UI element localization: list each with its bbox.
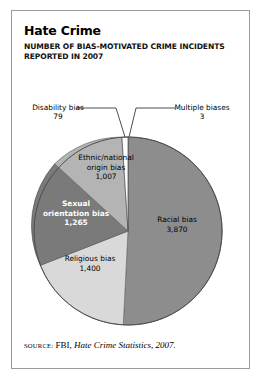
slice-label-religious-bias-value: 1,400 xyxy=(50,264,130,274)
slice-label-ethnic-line1: Ethnic/national xyxy=(66,153,146,163)
page-title: Hate Crime xyxy=(24,24,238,38)
slice-label-sexual-value: 1,265 xyxy=(32,218,120,228)
slice-label-racial-bias-name: Racial bias xyxy=(140,215,214,225)
chart-subtitle: NUMBER OF BIAS-MOTIVATED CRIME INCIDENTS… xyxy=(24,42,238,61)
source-publication: Hate Crime Statistics, 2007. xyxy=(74,340,176,350)
slice-label-racial-bias-value: 3,870 xyxy=(140,225,214,235)
slice-label-ethnic-line2: origin bias xyxy=(66,163,146,173)
callout-multiple-biases-value: 3 xyxy=(162,112,242,121)
slice-label-ethnic-value: 1,007 xyxy=(66,172,146,182)
slice-label-religious-bias-name: Religious bias xyxy=(50,254,130,264)
figure-card: Hate Crime NUMBER OF BIAS-MOTIVATED CRIM… xyxy=(11,10,250,369)
source-agency: FBI, xyxy=(56,340,72,350)
slice-label-ethnic-national-origin-bias: Ethnic/national origin bias 1,007 xyxy=(66,153,146,182)
callout-multiple-biases: Multiple biases 3 xyxy=(162,103,242,122)
slice-label-sexual-orientation-bias: Sexual orientation bias 1,265 xyxy=(32,199,120,228)
pie-chart: Disability bias 79 Multiple biases 3 Rac… xyxy=(12,71,249,329)
slice-label-religious-bias: Religious bias 1,400 xyxy=(50,254,130,273)
slice-label-sexual-line1: Sexual xyxy=(32,199,120,209)
callout-disability-bias: Disability bias 79 xyxy=(20,103,96,122)
slice-label-racial-bias: Racial bias 3,870 xyxy=(140,215,214,234)
source-label: SOURCE: xyxy=(24,342,53,349)
source-note: SOURCE: FBI, Hate Crime Statistics, 2007… xyxy=(24,340,238,351)
header-block: Hate Crime NUMBER OF BIAS-MOTIVATED CRIM… xyxy=(24,24,238,61)
callout-disability-bias-name: Disability bias xyxy=(20,103,96,112)
callout-disability-bias-value: 79 xyxy=(20,112,96,121)
callout-multiple-biases-name: Multiple biases xyxy=(162,103,242,112)
slice-label-sexual-line2: orientation bias xyxy=(32,209,120,219)
